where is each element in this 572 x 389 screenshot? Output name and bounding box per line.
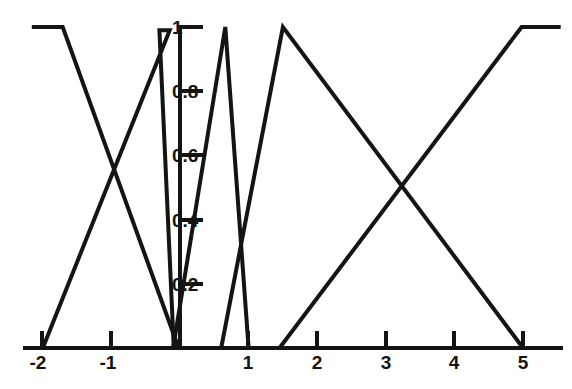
chart-canvas (0, 0, 572, 389)
x-tick-label-2: 2 (312, 353, 323, 372)
curve-triangle-1 (43, 30, 174, 348)
x-tick-label-3: 3 (381, 353, 392, 372)
x-tick-label-4: 4 (449, 353, 460, 372)
x-tick-label-5: 5 (518, 353, 529, 372)
x-tick-label--2: -2 (30, 353, 47, 372)
curve-right-trapezoid (280, 27, 561, 348)
x-tick-label--1: -1 (100, 353, 117, 372)
x-tick-label-1: 1 (243, 353, 254, 372)
curve-triangle-2 (173, 27, 249, 348)
membership-curves (32, 27, 561, 348)
membership-function-chart: 1 0.8 0.6 0.4 0.2 -2 -1 1 2 3 4 5 (0, 0, 572, 389)
curve-triangle-3 (221, 27, 523, 348)
